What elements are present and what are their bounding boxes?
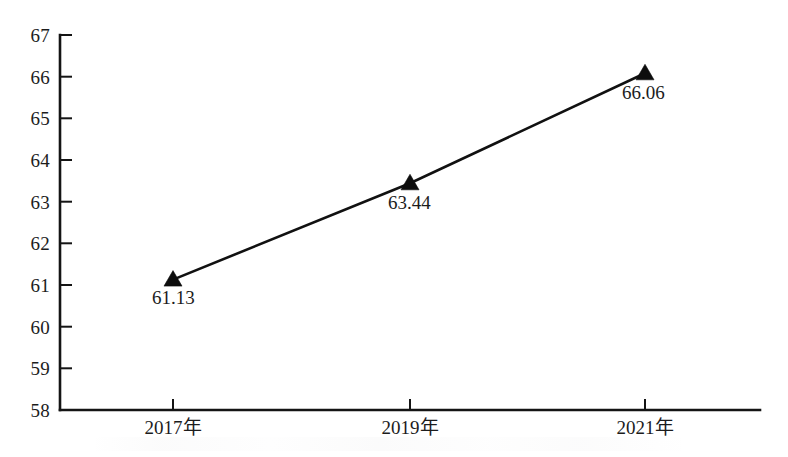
y-tick-label-65: 65 (18, 109, 50, 128)
y-tick-label-59: 59 (18, 359, 50, 378)
x-tick-label-2019: 2019年 (350, 418, 470, 437)
y-tick-label-62: 62 (18, 234, 50, 253)
chart-canvas (0, 0, 788, 457)
y-tick-label-64: 64 (18, 151, 50, 170)
y-tick-label-61: 61 (18, 276, 50, 295)
x-axis-ticks (173, 399, 645, 410)
data-label-2019: 63.44 (388, 193, 431, 212)
x-tick-label-2021: 2021年 (585, 418, 705, 437)
y-tick-label-58: 58 (18, 401, 50, 420)
data-point-marker (636, 64, 654, 80)
y-axis-ticks (60, 35, 72, 368)
data-label-2021: 66.06 (622, 83, 665, 102)
line-chart-figure: 67 66 65 64 63 62 61 60 59 58 2017年 2019… (0, 0, 788, 457)
x-tick-label-2017: 2017年 (113, 418, 233, 437)
data-label-2017: 61.13 (152, 288, 195, 307)
y-tick-label-63: 63 (18, 193, 50, 212)
y-tick-label-60: 60 (18, 318, 50, 337)
data-point-marker (401, 174, 419, 190)
y-tick-label-66: 66 (18, 68, 50, 87)
y-tick-label-67: 67 (18, 26, 50, 45)
